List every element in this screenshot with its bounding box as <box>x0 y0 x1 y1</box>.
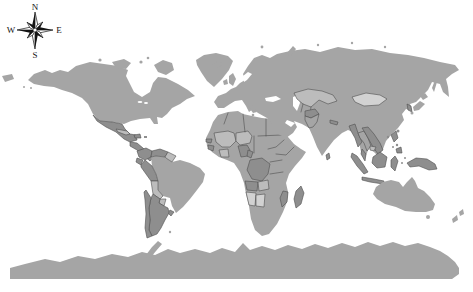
region-new-guinea <box>407 158 437 170</box>
region-falklands <box>169 231 171 233</box>
arctic-island-dot-1 <box>98 58 101 61</box>
oceania-group <box>373 177 464 223</box>
aleutian-dot-2 <box>30 87 32 89</box>
region-ireland <box>223 79 228 85</box>
region-zambia <box>258 180 269 191</box>
region-jamaica <box>129 136 131 138</box>
region-puerto-rico <box>144 136 147 138</box>
south-america-group <box>136 148 205 238</box>
arctic-island-dot-3 <box>147 57 150 60</box>
region-java <box>362 177 384 184</box>
region-tasmania <box>426 215 430 219</box>
region-great-britain <box>229 73 236 86</box>
region-senegal <box>206 139 212 143</box>
region-mindanao <box>396 147 402 153</box>
region-moluccas-1 <box>401 162 403 164</box>
region-botswana <box>256 194 265 207</box>
region-argentina <box>149 194 169 236</box>
region-taiwan <box>397 130 400 133</box>
arctic-russia-dot-1 <box>317 44 319 46</box>
region-honshu <box>413 101 425 111</box>
region-kyushu <box>411 112 414 115</box>
region-sri-lanka <box>326 153 330 160</box>
map-figure: N E S W <box>0 0 473 292</box>
region-niger <box>236 131 252 145</box>
region-ghana-ivory-coast <box>219 149 229 157</box>
compass-hub <box>33 28 36 31</box>
region-borneo <box>372 152 387 168</box>
antarctica-group <box>10 241 459 279</box>
arctic-island-dot-2 <box>139 60 142 63</box>
region-namibia <box>246 192 256 206</box>
region-antarctica <box>10 242 459 279</box>
compass-label-south: S <box>32 50 37 60</box>
region-korea <box>407 104 412 112</box>
region-chukotka-fragment <box>2 74 14 82</box>
region-guinea <box>208 145 214 151</box>
aleutian-dot-1 <box>23 86 25 88</box>
region-moluccas-2 <box>404 157 406 159</box>
compass-label-north: N <box>32 2 39 12</box>
north-america-group <box>2 53 233 161</box>
arctic-russia-dot-2 <box>351 42 353 44</box>
region-visayas-1 <box>396 144 398 146</box>
arctic-russia-dot-3 <box>384 46 386 48</box>
region-nz-south-island <box>452 215 458 223</box>
region-sicily <box>252 114 255 117</box>
region-visayas-2 <box>392 146 394 148</box>
world-map: N E S W <box>0 0 473 292</box>
region-baffin-island <box>154 60 174 75</box>
compass-label-west: W <box>7 25 16 35</box>
region-hispaniola <box>134 134 141 138</box>
compass-rose: N E S W <box>7 2 63 60</box>
great-lake-1 <box>138 101 143 103</box>
compass-label-east: E <box>56 25 62 35</box>
region-nz-north-island <box>459 209 464 216</box>
region-madagascar <box>294 186 304 208</box>
svalbard-dot <box>261 46 264 49</box>
region-hainan <box>387 136 389 138</box>
region-angola <box>245 181 258 191</box>
great-lake-2 <box>144 102 148 104</box>
region-sulawesi <box>391 156 398 171</box>
